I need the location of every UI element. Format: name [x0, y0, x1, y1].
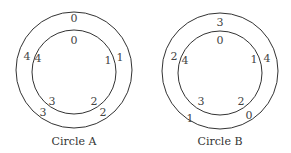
circle-b-caption: Circle B — [198, 135, 243, 148]
circle-b: 3 4 0 1 2 0 1 2 3 4 Circle B — [162, 13, 278, 148]
circle-a-inner-label: 4 — [35, 52, 42, 65]
diagram-canvas: 0 1 2 3 4 0 1 2 3 4 Circle A 3 4 0 1 2 0… — [0, 0, 291, 153]
circle-b-inner-label: 4 — [182, 54, 189, 67]
circle-a: 0 1 2 3 4 0 1 2 3 4 Circle A — [16, 12, 132, 148]
circle-a-inner-label: 2 — [91, 95, 98, 108]
circle-a-inner-label: 1 — [105, 54, 112, 67]
circle-a-outer-ring — [16, 12, 132, 128]
circle-b-inner-label: 1 — [251, 53, 258, 66]
circle-a-inner-label: 3 — [49, 95, 56, 108]
circle-b-outer-label: 3 — [217, 16, 224, 29]
circle-b-outer-ring — [162, 13, 278, 129]
circle-b-inner-label: 3 — [198, 95, 205, 108]
circle-a-outer-label: 1 — [117, 51, 124, 64]
circle-a-outer-label: 3 — [40, 106, 47, 119]
circle-a-caption: Circle A — [52, 135, 98, 148]
circle-b-outer-label: 4 — [264, 52, 271, 65]
circle-b-inner-label: 0 — [217, 34, 224, 47]
circle-b-outer-label: 0 — [246, 109, 253, 122]
circle-b-inner-label: 2 — [238, 95, 245, 108]
circle-a-outer-label: 2 — [100, 106, 107, 119]
circle-b-outer-label: 2 — [171, 50, 178, 63]
circle-a-inner-label: 0 — [71, 34, 78, 47]
circle-b-outer-label: 1 — [187, 112, 194, 125]
circle-a-outer-label: 4 — [24, 50, 31, 63]
circle-a-outer-label: 0 — [71, 12, 78, 25]
